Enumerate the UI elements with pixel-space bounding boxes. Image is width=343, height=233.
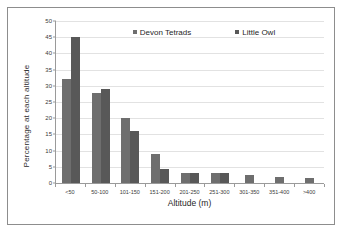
y-tick-label: 40 [45, 50, 52, 56]
x-tick-mark [145, 184, 146, 187]
bar [305, 178, 314, 184]
x-tick-mark [55, 184, 56, 187]
bar [160, 169, 169, 183]
bar [190, 173, 199, 183]
x-tick-mark [85, 184, 86, 187]
x-tick-mark [294, 184, 295, 187]
plot-area: 05101520253035404550 [55, 21, 324, 184]
bar-group [205, 21, 235, 183]
x-tick-label: 301-350 [234, 184, 264, 195]
bar [211, 173, 220, 183]
bar-group [235, 21, 265, 183]
x-tick-label: <50 [55, 184, 85, 195]
bar-chart: Percentage at each altitude Devon Tetrad… [8, 8, 334, 224]
bar [62, 79, 71, 183]
y-tick-label: 20 [45, 115, 52, 121]
x-tick-mark [264, 184, 265, 187]
x-tick-labels: <5050-100101-150151-200201-250251-300301… [55, 184, 324, 195]
y-tick-label: 35 [45, 67, 52, 73]
x-tick-label: 201-250 [175, 184, 205, 195]
bar [101, 89, 110, 183]
x-tick-label: >400 [294, 184, 324, 195]
y-axis-title: Percentage at each altitude [22, 51, 31, 181]
bar [71, 37, 80, 183]
y-tick-label: 15 [45, 131, 52, 137]
bar [220, 173, 229, 183]
chart-frame: Percentage at each altitude Devon Tetrad… [7, 7, 335, 225]
bar [275, 177, 284, 183]
x-tick-label: 50-100 [85, 184, 115, 195]
x-tick-mark [175, 184, 176, 187]
x-tick-mark [324, 184, 325, 187]
y-tick-label: 30 [45, 83, 52, 89]
bar [130, 131, 139, 183]
bar-groups [56, 21, 324, 183]
x-tick-label: 351-400 [264, 184, 294, 195]
y-tick-label: 25 [45, 99, 52, 105]
bar-group [145, 21, 175, 183]
x-tick-mark [115, 184, 116, 187]
x-axis-title: Altitude (m) [55, 198, 324, 208]
x-tick-label: 151-200 [145, 184, 175, 195]
y-tick-label: 5 [49, 164, 52, 170]
x-tick-label: 251-300 [204, 184, 234, 195]
y-tick-label: 10 [45, 148, 52, 154]
bar [181, 173, 190, 183]
x-axis: <5050-100101-150151-200201-250251-300301… [55, 184, 324, 224]
bar [151, 154, 160, 183]
bar [121, 118, 130, 183]
y-tick-label: 50 [45, 18, 52, 24]
bar-group [116, 21, 146, 183]
bar [92, 93, 101, 183]
bar-group [56, 21, 86, 183]
y-tick-label: 45 [45, 34, 52, 40]
bar [245, 175, 254, 183]
bar-group [86, 21, 116, 183]
y-tick-label: 0 [49, 180, 52, 186]
x-tick-mark [204, 184, 205, 187]
bar-group [264, 21, 294, 183]
bar-group [175, 21, 205, 183]
bar-group [294, 21, 324, 183]
x-tick-mark [234, 184, 235, 187]
x-tick-label: 101-150 [115, 184, 145, 195]
